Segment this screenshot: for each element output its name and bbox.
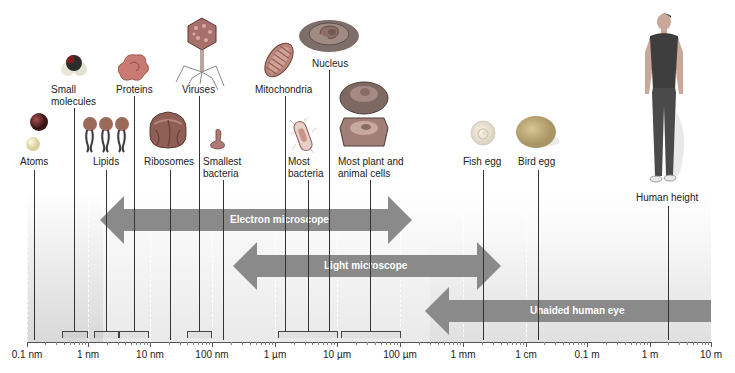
axis-minor-tick xyxy=(56,342,57,345)
axis-tick xyxy=(275,342,276,347)
axis-minor-tick xyxy=(261,342,262,345)
axis-minor-tick xyxy=(584,342,585,345)
axis-minor-tick xyxy=(702,342,703,345)
axis-minor-tick xyxy=(64,342,65,345)
axis-tick xyxy=(463,342,464,347)
axis-minor-tick xyxy=(242,342,243,345)
axis-minor-tick xyxy=(334,342,335,345)
axis-minor-tick xyxy=(606,342,607,345)
axis-tick xyxy=(400,342,401,347)
leader-cells xyxy=(370,180,371,332)
leader-ribosomes xyxy=(170,170,171,340)
axis-minor-tick xyxy=(331,342,332,345)
axis-minor-tick xyxy=(136,342,137,345)
axis-minor-tick xyxy=(131,342,132,345)
decade-guide xyxy=(27,190,28,342)
decade-guide xyxy=(88,190,89,342)
axis-label-1nm: 1 nm xyxy=(77,349,99,360)
range-bracket-small-molecules xyxy=(62,331,88,338)
axis-tick xyxy=(587,342,588,347)
axis-tick xyxy=(150,342,151,347)
label-smallest-bacteria-1: Smallest xyxy=(203,156,241,168)
axis-minor-tick xyxy=(457,342,458,345)
axis-minor-tick xyxy=(668,342,669,345)
axis-minor-tick xyxy=(512,342,513,345)
label-smallest-bacteria-2: bacteria xyxy=(203,168,239,180)
electron-microscope-label: Electron microscope xyxy=(230,214,329,225)
axis-minor-tick xyxy=(202,342,203,345)
axis-tick xyxy=(337,342,338,347)
axis-minor-tick xyxy=(397,342,398,345)
smallest-bacteria-icon xyxy=(208,128,228,152)
axis-minor-tick xyxy=(381,342,382,345)
axis-minor-tick xyxy=(305,342,306,345)
light-microscope-label: Light microscope xyxy=(324,260,407,271)
shade-band xyxy=(27,190,103,342)
plant-animal-cells-icon xyxy=(336,80,392,150)
axis-tick xyxy=(88,342,89,347)
axis-minor-tick xyxy=(327,342,328,345)
axis-minor-tick xyxy=(356,342,357,345)
axis-minor-tick xyxy=(544,342,545,345)
axis-minor-tick xyxy=(644,342,645,345)
axis-label-100um: 100 µm xyxy=(383,349,417,360)
axis-minor-tick xyxy=(45,342,46,345)
leader-mitochondria xyxy=(285,96,286,332)
axis-minor-tick xyxy=(70,342,71,345)
axis-minor-tick xyxy=(74,342,75,345)
axis-minor-tick xyxy=(636,342,637,345)
axis-minor-tick xyxy=(209,342,210,345)
range-bracket-lipids xyxy=(94,331,120,338)
axis-minor-tick xyxy=(501,342,502,345)
axis-minor-tick xyxy=(269,342,270,345)
axis-minor-tick xyxy=(250,342,251,345)
axis-minor-tick xyxy=(140,342,141,345)
axis-minor-tick xyxy=(482,342,483,345)
axis-minor-tick xyxy=(563,342,564,345)
label-nucleus: Nucleus xyxy=(312,58,348,70)
leader-viruses xyxy=(199,96,200,332)
axis-minor-tick xyxy=(193,342,194,345)
axis-minor-tick xyxy=(118,342,119,345)
axis-minor-tick xyxy=(82,342,83,345)
axis-minor-tick xyxy=(256,342,257,345)
label-bird-egg: Bird egg xyxy=(518,156,555,168)
axis-label-0.1nm: 0.1 nm xyxy=(12,349,43,360)
axis-minor-tick xyxy=(516,342,517,345)
axis-minor-tick xyxy=(187,342,188,345)
axis-minor-tick xyxy=(231,342,232,345)
axis-minor-tick xyxy=(679,342,680,345)
unaided-eye-label: Unaided human eye xyxy=(530,305,624,316)
leader-human-height xyxy=(668,206,669,340)
leader-atoms xyxy=(34,170,35,340)
axis-tick xyxy=(650,342,651,347)
leader-most-bacteria xyxy=(308,180,309,332)
axis-minor-tick xyxy=(390,342,391,345)
axis-minor-tick xyxy=(581,342,582,345)
axis-minor-tick xyxy=(460,342,461,345)
axis-minor-tick xyxy=(555,342,556,345)
ribosome-icon xyxy=(146,108,190,152)
label-lipids: Lipids xyxy=(93,156,119,168)
human-icon xyxy=(636,12,696,194)
axis-minor-tick xyxy=(265,342,266,345)
small-molecule-icon xyxy=(61,54,87,78)
axis-minor-tick xyxy=(312,342,313,345)
axis-minor-tick xyxy=(206,342,207,345)
axis-minor-tick xyxy=(323,342,324,345)
range-bracket-cells xyxy=(341,331,401,338)
range-bracket-proteins xyxy=(118,331,149,338)
axis-minor-tick xyxy=(705,342,706,345)
axis-label-10um: 10 µm xyxy=(323,349,351,360)
atoms-icon xyxy=(26,112,50,152)
bird-egg-icon xyxy=(514,114,562,152)
leader-lipids xyxy=(106,170,107,332)
axis-minor-tick xyxy=(272,342,273,345)
axis-minor-tick xyxy=(617,342,618,345)
range-bracket-bacteria xyxy=(278,331,338,338)
axis-minor-tick xyxy=(693,342,694,345)
axis-minor-tick xyxy=(444,342,445,345)
label-fish-egg: Fish egg xyxy=(463,156,501,168)
mitochondria-icon xyxy=(260,38,298,82)
label-cells-2: animal cells xyxy=(338,168,390,180)
